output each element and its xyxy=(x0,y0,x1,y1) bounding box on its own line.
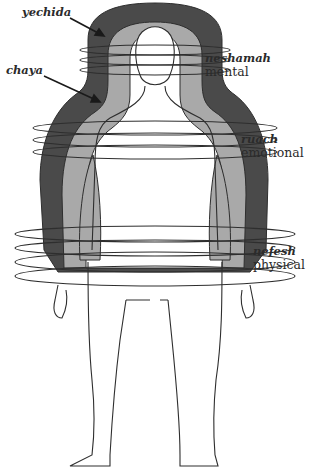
label-chaya-name: chaya xyxy=(6,64,43,77)
label-yechida: yechida xyxy=(22,6,71,19)
label-nefesh: nefesh physical xyxy=(253,245,305,271)
label-yechida-name: yechida xyxy=(22,6,71,19)
label-neshamah: neshamah mental xyxy=(205,52,271,78)
soul-levels-diagram: yechida chaya neshamah mental ruach emot… xyxy=(0,0,310,475)
label-ruach-sub: emotional xyxy=(241,146,304,159)
label-ruach: ruach emotional xyxy=(241,133,304,159)
label-nefesh-sub: physical xyxy=(253,258,305,271)
label-neshamah-sub: mental xyxy=(205,65,271,78)
label-chaya: chaya xyxy=(6,64,43,77)
